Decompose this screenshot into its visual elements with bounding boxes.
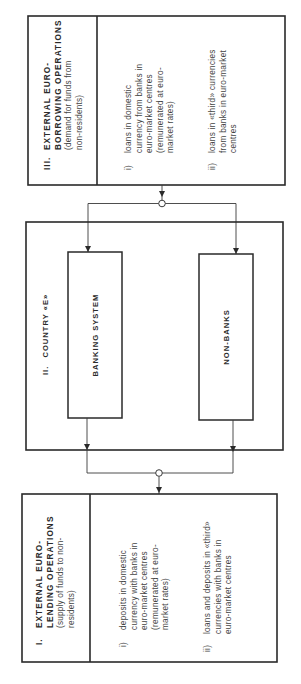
connector-ii-to-i bbox=[84, 418, 236, 494]
connector-branch bbox=[88, 204, 236, 255]
section-i-subtitle-line-2: residents) bbox=[67, 590, 76, 628]
item-line: currencies with banks in bbox=[214, 539, 223, 634]
section-i-title-line-2: LENDING OPERATIONS bbox=[46, 516, 55, 628]
section-ii-box bbox=[26, 222, 283, 450]
item-marker: ii) bbox=[208, 163, 217, 170]
section-iii-number: III. bbox=[43, 157, 52, 171]
item-line: market rates) bbox=[161, 578, 170, 630]
section-ii-country-e: II. COUNTRY «E» BANKING SYSTEM NON-BANKS bbox=[26, 222, 283, 450]
arrow-down-icon bbox=[159, 191, 165, 197]
section-iii-title-line-1: EXTERNAL EURO- bbox=[43, 62, 52, 150]
section-iii-header: III. EXTERNAL EURO- BORROWING OPERATIONS… bbox=[43, 19, 84, 170]
non-banks-block: NON-BANKS bbox=[199, 254, 253, 420]
arrow-down-icon bbox=[85, 246, 91, 252]
arrow-down-icon bbox=[84, 444, 90, 450]
section-i-item-1: i) deposits in domestic currency with ba… bbox=[119, 542, 170, 647]
section-i-number: I. bbox=[35, 638, 44, 645]
item-line: euro-market centres bbox=[145, 74, 154, 153]
item-line: currency from banks in bbox=[135, 63, 144, 153]
section-ii-number: II. bbox=[41, 366, 50, 375]
section-iii-item-2: ii) loans in «third» currencies from ban… bbox=[208, 49, 238, 170]
section-ii-title-text: COUNTRY «E» bbox=[41, 294, 50, 358]
arrow-down-icon bbox=[156, 487, 162, 493]
item-line: loans in «third» currencies bbox=[208, 49, 217, 153]
section-i-title-line-1: EXTERNAL EURO- bbox=[35, 540, 44, 628]
section-ii-title: II. COUNTRY «E» bbox=[41, 294, 50, 375]
banking-system-label: BANKING SYSTEM bbox=[91, 294, 100, 377]
section-iii-external-euro-borrowing: III. EXTERNAL EURO- BORROWING OPERATIONS… bbox=[28, 16, 285, 185]
item-line: euro-market centres bbox=[224, 555, 233, 634]
section-i-external-euro-lending: I. EXTERNAL EURO- LENDING OPERATIONS (su… bbox=[22, 494, 277, 662]
section-iii-item-1: i) loans in domestic currency from banks… bbox=[124, 63, 175, 170]
section-iii-subtitle-line-1: (demand for funds from bbox=[64, 61, 73, 151]
item-line: market rates) bbox=[166, 101, 175, 153]
item-marker: i) bbox=[119, 642, 128, 647]
arrow-down-icon bbox=[233, 248, 239, 254]
item-line: currency with banks in bbox=[130, 542, 139, 630]
item-line: (remunerated at euro- bbox=[156, 67, 165, 153]
connector-merge bbox=[87, 418, 233, 473]
item-marker: i) bbox=[124, 165, 133, 170]
item-line: centres bbox=[229, 124, 238, 153]
section-i-item-2: ii) loans and deposits in «third» curren… bbox=[203, 521, 233, 652]
item-line: (remunerated at euro- bbox=[151, 544, 160, 630]
junction-node bbox=[156, 470, 163, 477]
item-line: loans in domestic bbox=[124, 85, 133, 153]
section-i-header: I. EXTERNAL EURO- LENDING OPERATIONS (su… bbox=[35, 516, 76, 645]
item-line: from banks in euro-market bbox=[219, 50, 228, 153]
euro-market-flow-diagram: III. EXTERNAL EURO- BORROWING OPERATIONS… bbox=[0, 0, 301, 684]
non-banks-label: NON-BANKS bbox=[222, 309, 231, 364]
item-marker: ii) bbox=[203, 645, 212, 652]
section-iii-subtitle-line-2: non-residents) bbox=[75, 95, 84, 150]
connector-iii-to-ii bbox=[85, 185, 239, 254]
junction-node bbox=[159, 200, 166, 207]
section-iii-title-line-2: BORROWING OPERATIONS bbox=[54, 19, 63, 150]
item-line: euro-market centres bbox=[140, 551, 149, 630]
banking-system-block: BANKING SYSTEM bbox=[68, 252, 122, 418]
item-line: loans and deposits in «third» bbox=[203, 521, 212, 634]
item-line: deposits in domestic bbox=[119, 550, 128, 630]
arrow-down-icon bbox=[230, 446, 236, 452]
section-i-subtitle-line-1: (supply of funds to non- bbox=[56, 538, 65, 628]
